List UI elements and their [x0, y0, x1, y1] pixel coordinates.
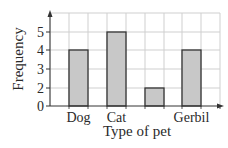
- bar-unlabeled: [145, 88, 164, 106]
- x-tick-label: Gerbil: [174, 110, 210, 125]
- y-tick-label: 5: [37, 25, 44, 40]
- y-tick-label: 3: [37, 62, 44, 77]
- bar-gerbil: [182, 50, 201, 106]
- bar-dog: [69, 50, 88, 106]
- y-tick-label: 4: [37, 43, 44, 58]
- y-tick-label: 2: [37, 81, 44, 96]
- x-tick-label: Dog: [66, 110, 90, 125]
- y-tick-label: 0: [37, 99, 44, 114]
- bar-cat: [107, 32, 126, 106]
- x-axis-label: Type of pet: [103, 123, 172, 139]
- y-axis-label: Frequency: [10, 27, 26, 91]
- bar-chart: 02345 DogCatGerbil Frequency Type of pet: [0, 0, 228, 148]
- y-tick-labels: 02345: [37, 25, 50, 114]
